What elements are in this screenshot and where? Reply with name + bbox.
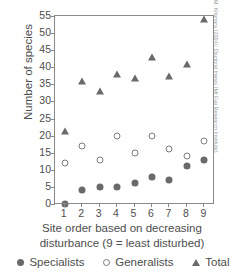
y-axis-tick-label: 25 [29, 113, 51, 124]
y-axis-tick-label: 10 [29, 164, 51, 175]
y-axis-tick-label: 30 [29, 95, 51, 106]
x-axis-title-line-1: Site order based on decreasing [24, 221, 220, 236]
y-axis-tick-mark [51, 33, 55, 34]
triangle-icon [113, 71, 121, 78]
legend-item-total: Total [192, 256, 229, 268]
y-axis-tick-label: 35 [29, 78, 51, 89]
y-axis-tick-mark [51, 204, 55, 205]
y-axis-tick-label: 40 [29, 61, 51, 72]
open-circle-icon [103, 259, 110, 266]
y-axis-tick-mark [51, 50, 55, 51]
filled-circle-icon [148, 173, 155, 180]
triangle-icon [61, 127, 69, 134]
open-circle-icon [114, 132, 121, 139]
triangle-icon [183, 60, 191, 67]
legend-label: Specialists [29, 256, 84, 268]
open-circle-icon [79, 142, 86, 149]
y-axis-tick-label: 55 [29, 10, 51, 21]
y-axis-tick-mark [51, 170, 55, 171]
open-circle-icon [148, 132, 155, 139]
x-axis-title-line-2: disturbance (9 = least disturbed) [24, 236, 220, 251]
filled-circle-icon [114, 183, 121, 190]
x-axis-tick-label: 9 [193, 208, 213, 219]
triangle-icon [200, 16, 208, 23]
filled-circle-icon [17, 259, 24, 266]
source-credit: M. Kitahara (2004): Doctoral thesis (Mt … [210, 0, 222, 208]
y-axis-tick-mark [51, 153, 55, 154]
filled-circle-icon [183, 163, 190, 170]
triangle-icon [165, 72, 173, 79]
chart-legend: Specialists Generalists Total [8, 252, 239, 272]
x-axis-title: Site order based on decreasing disturban… [24, 221, 220, 250]
filled-circle-icon [166, 177, 173, 184]
filled-circle-icon [201, 156, 208, 163]
filled-circle-icon [79, 187, 86, 194]
triangle-icon [131, 74, 139, 81]
open-circle-icon [183, 153, 190, 160]
open-circle-icon [131, 149, 138, 156]
triangle-icon [96, 88, 104, 95]
y-axis-tick-label: 20 [29, 130, 51, 141]
y-axis-tick-label: 15 [29, 147, 51, 158]
open-circle-icon [61, 159, 68, 166]
y-axis-tick-mark [51, 101, 55, 102]
filled-circle-icon [131, 180, 138, 187]
y-axis-tick-mark [51, 119, 55, 120]
open-circle-icon [96, 156, 103, 163]
y-axis-tick-label: 0 [29, 198, 51, 209]
legend-item-specialists: Specialists [17, 256, 84, 268]
open-circle-icon [201, 137, 208, 144]
y-axis-tick-mark [51, 187, 55, 188]
triangle-icon [78, 77, 86, 84]
triangle-icon [192, 259, 200, 266]
y-axis-tick-mark [51, 16, 55, 17]
y-axis-tick-label: 50 [29, 27, 51, 38]
scatter-chart-figure: Number of species 0510152025303540455055… [0, 0, 247, 276]
open-circle-icon [166, 146, 173, 153]
legend-item-generalists: Generalists [103, 256, 173, 268]
y-axis-tick-mark [51, 84, 55, 85]
y-axis-tick-label: 5 [29, 181, 51, 192]
legend-label: Generalists [115, 256, 173, 268]
triangle-icon [148, 54, 156, 61]
plot-area [54, 15, 213, 203]
y-axis-tick-mark [51, 67, 55, 68]
y-axis-tick-mark [51, 136, 55, 137]
legend-label: Total [205, 256, 229, 268]
filled-circle-icon [96, 183, 103, 190]
y-axis-tick-label: 45 [29, 44, 51, 55]
